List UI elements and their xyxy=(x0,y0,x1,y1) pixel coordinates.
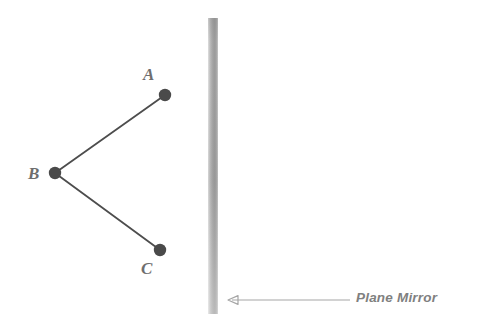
segment-b-to-c xyxy=(55,173,160,250)
diagram-canvas: A B C Plane Mirror xyxy=(0,0,479,331)
segment-b-to-a xyxy=(55,95,165,173)
point-dot-a xyxy=(159,89,171,101)
plane-mirror-bar xyxy=(208,18,218,314)
point-label-a: A xyxy=(143,66,155,83)
plane-mirror-caption: Plane Mirror xyxy=(356,291,437,305)
point-dot-b xyxy=(49,167,61,179)
point-dot-c xyxy=(154,244,166,256)
reflection-diagram xyxy=(0,0,479,331)
mirror-leader-arrow xyxy=(228,296,350,305)
point-label-b: B xyxy=(28,165,40,182)
point-label-c: C xyxy=(141,260,153,277)
